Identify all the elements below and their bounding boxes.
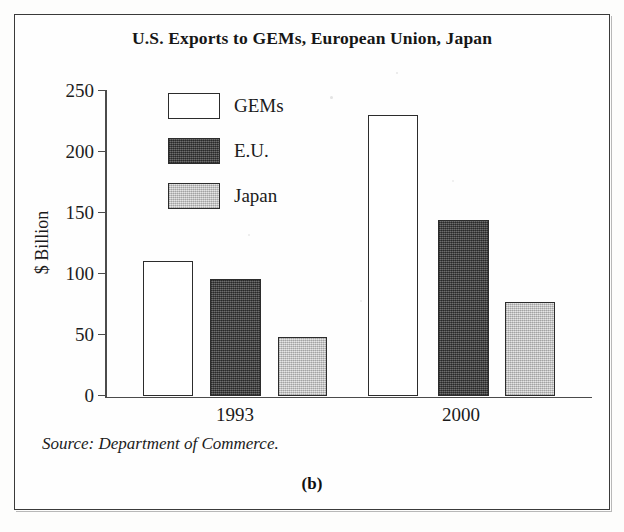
- legend-label-japan: Japan: [234, 185, 277, 207]
- y-tick-0: [98, 395, 106, 396]
- legend-label-eu: E.U.: [234, 140, 269, 162]
- y-tick-50: [98, 334, 106, 335]
- figure-page: U.S. Exports to GEMs, European Union, Ja…: [0, 0, 624, 532]
- y-tick-200: [98, 151, 106, 152]
- chart-legend: GEMs E.U. Japan: [168, 88, 284, 223]
- panel-label: (b): [14, 474, 610, 494]
- y-tick-label-150: 150: [48, 202, 94, 224]
- x-tick-label-1993: 1993: [175, 404, 295, 426]
- x-axis-line: [105, 397, 592, 399]
- y-tick-label-50: 50: [48, 324, 94, 346]
- y-axis-line: [105, 90, 107, 398]
- legend-label-gems: GEMs: [234, 95, 284, 117]
- legend-swatch-japan-icon: [168, 183, 220, 209]
- bar-eu-1993: [210, 279, 261, 396]
- legend-swatch-gems-icon: [168, 93, 220, 119]
- legend-item-japan: Japan: [168, 178, 284, 214]
- legend-item-eu: E.U.: [168, 133, 284, 169]
- y-tick-250: [98, 90, 106, 91]
- y-tick-label-200: 200: [48, 141, 94, 163]
- bar-gems-2000: [368, 115, 418, 396]
- x-tick-label-2000: 2000: [401, 404, 521, 426]
- bar-japan-2000: [505, 302, 555, 396]
- y-axis-title: $ Billion: [32, 173, 53, 313]
- y-tick-100: [98, 273, 106, 274]
- bar-gems-1993: [143, 261, 193, 396]
- y-tick-label-250: 250: [48, 80, 94, 102]
- source-note: Source: Department of Commerce.: [42, 434, 279, 454]
- bar-japan-1993: [278, 337, 327, 396]
- y-tick-150: [98, 212, 106, 213]
- y-tick-label-0: 0: [48, 385, 94, 407]
- y-tick-label-100: 100: [48, 263, 94, 285]
- legend-item-gems: GEMs: [168, 88, 284, 124]
- bar-eu-2000: [438, 220, 489, 396]
- legend-swatch-eu-icon: [168, 138, 220, 164]
